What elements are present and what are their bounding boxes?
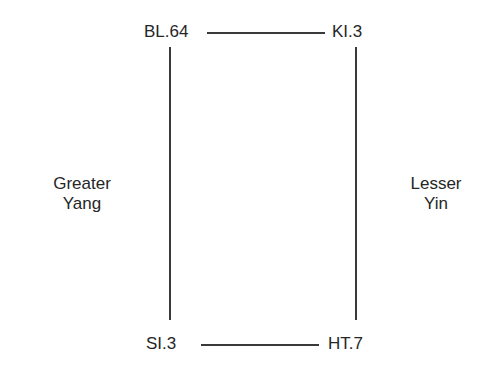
edge-ki3-ht7: [355, 47, 357, 320]
acupoint-diagram: BL.64 KI.3 Greater Yang Lesser Yin SI.3 …: [0, 0, 495, 371]
edge-si3-ht7: [201, 344, 319, 346]
label-greater-yang: Greater Yang: [42, 174, 122, 214]
edge-bl64-ki3: [207, 32, 325, 34]
label-lesser-yin-line2: Yin: [400, 194, 472, 214]
label-lesser-yin: Lesser Yin: [400, 174, 472, 214]
label-greater-yang-line2: Yang: [42, 194, 122, 214]
edge-bl64-si3: [169, 47, 171, 320]
label-greater-yang-line1: Greater: [42, 174, 122, 194]
node-si3: SI.3: [146, 334, 176, 354]
node-ht7: HT.7: [328, 334, 363, 354]
node-ki3: KI.3: [332, 22, 362, 42]
label-lesser-yin-line1: Lesser: [400, 174, 472, 194]
node-bl64: BL.64: [144, 22, 188, 42]
